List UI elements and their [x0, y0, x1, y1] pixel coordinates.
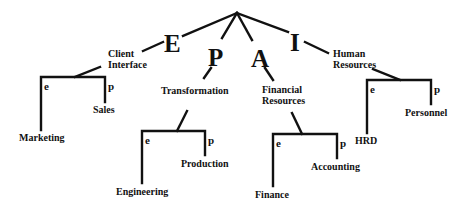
- p-marker: p: [108, 80, 114, 92]
- e-marker: e: [44, 80, 49, 92]
- letter-i: I: [290, 29, 300, 56]
- client-interface-label-2: Interface: [108, 59, 147, 70]
- financial-resources-label-1: Financial: [262, 84, 302, 95]
- e-marker: e: [276, 137, 281, 149]
- production-label: Production: [181, 158, 229, 169]
- sales-label: Sales: [93, 104, 115, 115]
- human-resources-label-2: Resources: [333, 59, 376, 70]
- accounting-label: Accounting: [311, 161, 360, 172]
- letter-e: E: [164, 30, 181, 57]
- finance-label: Finance: [255, 189, 289, 200]
- transformation-label: Transformation: [161, 85, 229, 96]
- human-resources-label-1: Human: [333, 48, 366, 59]
- branch-e: E Client Interface e p Marketing Sales: [19, 30, 181, 143]
- p-marker: p: [434, 83, 440, 95]
- e-marker: e: [370, 83, 375, 95]
- branch-i: I Human Resources e p HRD Personnel: [290, 29, 447, 146]
- personnel-label: Personnel: [405, 107, 447, 118]
- client-interface-label-1: Client: [108, 48, 135, 59]
- e-marker: e: [145, 134, 150, 146]
- p-marker: p: [340, 137, 346, 149]
- root-connectors: [183, 13, 288, 40]
- engineering-label: Engineering: [116, 186, 168, 197]
- financial-resources-label-2: Resources: [262, 95, 305, 106]
- marketing-label: Marketing: [19, 132, 65, 143]
- hrd-label: HRD: [355, 135, 377, 146]
- epai-tree-diagram: E Client Interface e p Marketing Sales P…: [0, 0, 462, 211]
- p-marker: p: [208, 134, 214, 146]
